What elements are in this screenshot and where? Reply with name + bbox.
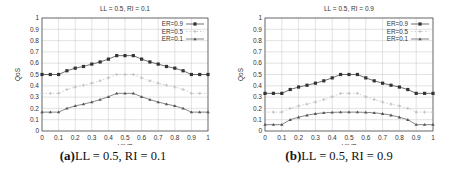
data-point xyxy=(373,98,376,101)
legend-label: ER=0.9 xyxy=(162,20,184,27)
data-point xyxy=(272,111,275,114)
data-point xyxy=(263,92,266,95)
x-tick-label: 0.2 xyxy=(294,134,303,141)
data-point xyxy=(356,92,359,95)
legend-marker xyxy=(193,22,196,25)
data-point xyxy=(107,76,110,79)
data-point xyxy=(165,65,168,68)
data-point xyxy=(331,76,334,79)
data-point xyxy=(356,73,359,76)
y-tick-label: 0.9 xyxy=(30,26,39,33)
data-point xyxy=(406,107,409,110)
data-point xyxy=(190,73,193,76)
data-point xyxy=(40,92,43,95)
data-point xyxy=(148,60,151,63)
y-tick-label: 0 xyxy=(35,127,39,134)
data-point xyxy=(148,79,151,82)
y-tick-label: 0.6 xyxy=(30,59,39,66)
data-point xyxy=(280,92,283,95)
x-tick-label: 1 xyxy=(206,134,210,141)
data-point xyxy=(305,84,308,87)
data-point xyxy=(190,92,193,95)
y-tick-label: 0.2 xyxy=(30,105,39,112)
data-point xyxy=(398,85,401,88)
x-tick-label: 0.8 xyxy=(395,134,404,141)
data-point xyxy=(423,111,426,114)
data-point xyxy=(90,82,93,85)
data-point xyxy=(74,67,77,70)
data-point xyxy=(173,67,176,70)
x-tick-label: 0.7 xyxy=(154,134,163,141)
y-tick-label: 0 xyxy=(258,127,262,134)
legend-marker xyxy=(193,30,196,33)
data-point xyxy=(65,88,68,91)
data-point xyxy=(272,92,275,95)
chart-panel-b: LL = 0.5, RI = 0.900.10.20.30.40.50.60.7… xyxy=(226,0,452,178)
data-point xyxy=(198,92,201,95)
legend: ER=0.9ER=0.5ER=0.1 xyxy=(387,20,429,42)
chart-title: LL = 0.5, RI = 0.9 xyxy=(324,5,374,12)
x-tick-label: 0.3 xyxy=(311,134,320,141)
x-tick-label: 0.1 xyxy=(54,134,63,141)
data-point xyxy=(157,63,160,66)
data-point xyxy=(82,65,85,68)
legend-marker xyxy=(418,22,421,25)
x-axis-label: UIVP xyxy=(117,143,132,145)
data-point xyxy=(381,100,384,103)
x-tick-label: 0.6 xyxy=(137,134,146,141)
data-point xyxy=(322,98,325,101)
data-point xyxy=(107,58,110,61)
x-tick-label: 0.1 xyxy=(277,134,286,141)
data-point xyxy=(381,82,384,85)
data-point xyxy=(415,111,418,114)
y-tick-label: 0.4 xyxy=(253,82,262,89)
data-point xyxy=(314,82,317,85)
data-point xyxy=(49,92,52,95)
y-tick-label: 0.6 xyxy=(253,59,262,66)
legend-label: ER=0.5 xyxy=(387,28,409,35)
x-tick-label: 0.2 xyxy=(71,134,80,141)
data-point xyxy=(373,79,376,82)
y-tick-label: 0.3 xyxy=(253,93,262,100)
data-point xyxy=(140,76,143,79)
y-tick-label: 0.1 xyxy=(30,116,39,123)
data-point xyxy=(99,79,102,82)
x-tick-label: 0.4 xyxy=(104,134,113,141)
x-tick-label: 0.5 xyxy=(120,134,129,141)
y-tick-label: 0.3 xyxy=(30,93,39,100)
data-point xyxy=(398,104,401,107)
y-tick-label: 0.9 xyxy=(253,26,262,33)
data-point xyxy=(115,73,118,76)
data-point xyxy=(305,103,308,106)
y-tick-label: 1 xyxy=(35,14,39,21)
data-point xyxy=(115,54,118,57)
y-tick-label: 0.5 xyxy=(30,71,39,78)
data-point xyxy=(297,104,300,107)
caption-b: (b)LL = 0.5, RI = 0.9 xyxy=(226,148,452,164)
data-point xyxy=(322,79,325,82)
data-point xyxy=(140,58,143,61)
data-point xyxy=(347,73,350,76)
y-axis-label: QoS xyxy=(237,67,245,81)
x-tick-label: 0.7 xyxy=(378,134,387,141)
data-point xyxy=(132,54,135,57)
chart-title: LL = 0.5, RI = 0.1 xyxy=(100,5,150,12)
data-point xyxy=(198,73,201,76)
caption-a-label: (a) xyxy=(60,148,75,163)
data-point xyxy=(423,92,426,95)
y-tick-label: 0.1 xyxy=(253,116,262,123)
y-axis-label: QoS xyxy=(14,67,22,81)
x-tick-label: 0.6 xyxy=(361,134,370,141)
data-point xyxy=(57,73,60,76)
y-tick-label: 0.2 xyxy=(253,105,262,112)
legend-marker xyxy=(418,30,421,33)
x-tick-label: 0.5 xyxy=(344,134,353,141)
x-tick-label: 0.4 xyxy=(328,134,337,141)
legend-label: ER=0.1 xyxy=(387,35,409,42)
y-tick-label: 1 xyxy=(258,14,262,21)
y-tick-label: 0.5 xyxy=(253,71,262,78)
data-point xyxy=(331,95,334,98)
data-point xyxy=(289,107,292,110)
x-tick-label: 0.3 xyxy=(87,134,96,141)
caption-b-text: LL = 0.5, RI = 0.9 xyxy=(301,149,392,163)
